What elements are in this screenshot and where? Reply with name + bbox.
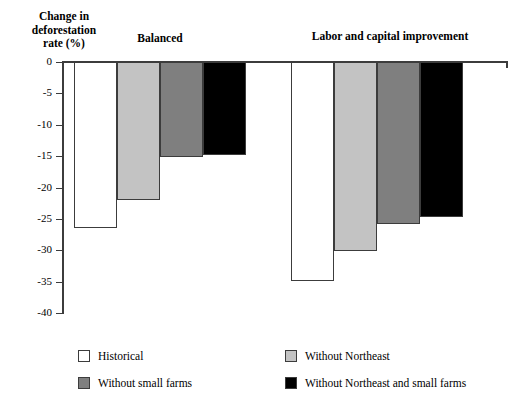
legend-swatch-historical — [78, 350, 90, 362]
y-tick-mark — [56, 188, 63, 189]
y-tick-label: -35 — [14, 276, 52, 287]
bar — [74, 62, 117, 228]
y-tick-mark — [56, 62, 63, 63]
bar — [203, 62, 246, 155]
axis-right-end-tick — [506, 61, 508, 68]
y-tick-label: -25 — [14, 213, 52, 224]
legend-swatch-without-northeast — [285, 350, 297, 362]
y-tick-label: -10 — [14, 119, 52, 130]
y-tick-mark — [56, 282, 63, 283]
chart-plot-area: 0-5-10-15-20-25-30-35-40 — [0, 0, 519, 340]
y-tick-label: -20 — [14, 182, 52, 193]
bar — [291, 62, 334, 281]
bar — [377, 62, 420, 224]
y-tick-label: 0 — [14, 56, 52, 67]
y-tick-mark — [56, 219, 63, 220]
legend-item-without-northeast-and-small-farms[interactable]: Without Northeast and small farms — [285, 377, 466, 389]
y-tick-mark — [56, 125, 63, 126]
y-tick-label: -15 — [14, 150, 52, 161]
y-tick-mark — [56, 156, 63, 157]
legend-swatch-without-small-farms — [78, 377, 90, 389]
y-tick-label: -30 — [14, 244, 52, 255]
legend-item-without-small-farms[interactable]: Without small farms — [78, 377, 192, 389]
y-tick-mark — [56, 250, 63, 251]
legend-label-historical: Historical — [98, 350, 143, 362]
y-tick-mark — [56, 93, 63, 94]
bar — [117, 62, 160, 200]
legend-label-without-small-farms: Without small farms — [98, 377, 192, 389]
legend-swatch-without-northeast-and-small-farms — [285, 377, 297, 389]
legend-label-without-northeast: Without Northeast — [305, 350, 390, 362]
legend-item-without-northeast[interactable]: Without Northeast — [285, 350, 390, 362]
y-tick-mark — [56, 313, 63, 314]
y-tick-label: -5 — [14, 87, 52, 98]
chart-legend: Historical Without Northeast Without sma… — [0, 344, 519, 403]
legend-item-historical[interactable]: Historical — [78, 350, 143, 362]
bar — [334, 62, 377, 251]
bar — [420, 62, 463, 217]
legend-label-without-northeast-and-small-farms: Without Northeast and small farms — [305, 377, 466, 389]
y-tick-label: -40 — [14, 307, 52, 318]
bar — [160, 62, 203, 157]
